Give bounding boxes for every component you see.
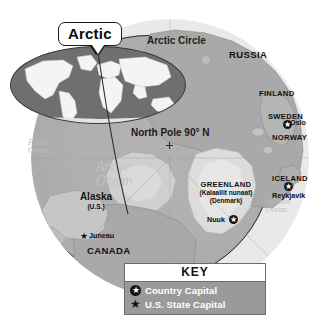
country-label-finland: FINLAND — [259, 90, 294, 98]
circled-star-icon-reykjavik: ★ — [284, 182, 293, 191]
arctic-circle-label: Arctic Circle — [147, 36, 206, 47]
key-label-country-capital: Country Capital — [145, 285, 217, 296]
city-label-juneau: Juneau — [89, 232, 114, 240]
country-label-norway: NORWAY — [272, 134, 307, 142]
arctic-ocean-label: Arctic Ocean — [96, 160, 133, 188]
circled-star-icon: ★ — [130, 285, 141, 296]
alaska-name: Alaska — [66, 192, 126, 203]
region-label-alaska: Alaska (U.S.) — [66, 192, 126, 210]
country-label-canada: CANADA — [87, 246, 131, 256]
greenland-name: GREENLAND — [187, 181, 265, 189]
world-inset-map — [10, 46, 186, 124]
arctic-map: Arctic Ocean Pacific Ocean Atlantic Ocea… — [0, 0, 324, 328]
key-title: KEY — [125, 264, 265, 282]
country-label-russia: RUSSIA — [229, 50, 267, 60]
greenland-owner: (Denmark) — [187, 198, 265, 205]
north-pole-label: North Pole 90° N — [131, 128, 209, 139]
circled-star-icon-nuuk: ★ — [229, 215, 238, 224]
pacific-ocean-label: Pacific Ocean — [28, 139, 51, 156]
map-key: KEY ★ Country Capital ★ U.S. State Capit… — [124, 263, 266, 315]
arctic-callout-box: Arctic — [58, 22, 122, 46]
key-entries: ★ Country Capital ★ U.S. State Capital — [125, 282, 265, 314]
star-icon-juneau: ★ — [80, 232, 88, 241]
city-label-nuuk: Nuuk — [207, 216, 225, 224]
city-label-oslo: Oslo — [290, 119, 306, 127]
star-icon: ★ — [130, 298, 141, 310]
greenland-native-name: (Kalaallit nunaat) — [187, 190, 265, 197]
country-label-greenland: GREENLAND (Kalaallit nunaat) (Denmark) — [187, 181, 265, 205]
key-row-state-capital: ★ U.S. State Capital — [125, 297, 265, 311]
callout-tail-icon — [92, 45, 104, 54]
north-pole-marker — [166, 142, 173, 149]
world-globe-ellipse — [10, 46, 186, 124]
city-label-reykjavik: Reykjavik — [272, 192, 305, 200]
alaska-owner: (U.S.) — [66, 204, 126, 211]
key-label-state-capital: U.S. State Capital — [145, 299, 225, 310]
key-row-country-capital: ★ Country Capital — [125, 284, 265, 297]
atlantic-ocean-label: Atlantic Ocean — [266, 198, 291, 215]
world-continents — [11, 47, 186, 124]
